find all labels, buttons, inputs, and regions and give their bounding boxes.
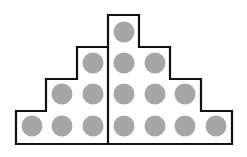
dot xyxy=(52,116,73,137)
dot xyxy=(114,53,135,74)
dot xyxy=(83,84,104,105)
dot xyxy=(145,116,166,137)
staircase-dot-diagram xyxy=(0,0,247,157)
dot xyxy=(206,116,227,137)
dot xyxy=(114,116,135,137)
dot xyxy=(175,84,196,105)
dot xyxy=(145,53,166,74)
dot xyxy=(83,116,104,137)
dot xyxy=(83,53,104,74)
dot xyxy=(114,84,135,105)
dot xyxy=(22,116,43,137)
dot xyxy=(145,84,166,105)
dot xyxy=(175,116,196,137)
dot xyxy=(52,84,73,105)
dot xyxy=(114,22,135,43)
